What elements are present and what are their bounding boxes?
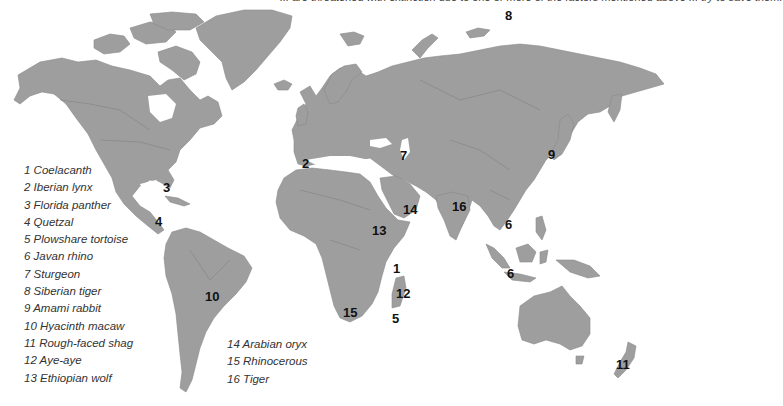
sumatra xyxy=(486,244,510,268)
novaya-zemlya xyxy=(412,34,438,58)
legend-column-1: 1 Coelacanth 2 Iberian lynx 3 Florida pa… xyxy=(24,162,133,387)
greenland xyxy=(196,10,292,90)
marker-arabian-oryx: 14 xyxy=(403,203,417,216)
marker-javan-rhino-2: 6 xyxy=(507,267,514,280)
legend-item: 2 Iberian lynx xyxy=(24,179,133,196)
legend-item: 3 Florida panther xyxy=(24,197,133,214)
legend-item: 13 Ethiopian wolf xyxy=(24,370,133,387)
legend-column-2: 14 Arabian oryx 15 Rhinocerous 16 Tiger xyxy=(227,336,308,388)
marker-plowshare-tortoise: 5 xyxy=(392,312,399,325)
marker-rhinocerous: 15 xyxy=(343,306,357,319)
marker-amami-rabbit: 9 xyxy=(548,148,555,161)
marker-tiger: 16 xyxy=(452,200,466,213)
marker-javan-rhino-1: 6 xyxy=(505,218,512,231)
marker-sturgeon: 7 xyxy=(400,149,407,162)
legend-item: 9 Amami rabbit xyxy=(24,300,133,317)
svalbard xyxy=(340,32,364,46)
legend-item: 15 Rhinocerous xyxy=(227,353,308,370)
legend-item: 7 Sturgeon xyxy=(24,266,133,283)
legend-item: 8 Siberian tiger xyxy=(24,283,133,300)
baffin-island xyxy=(158,46,200,80)
legend-item: 10 Hyacinth macaw xyxy=(24,318,133,335)
marker-aye-aye: 12 xyxy=(396,287,410,300)
legend-item: 6 Javan rhino xyxy=(24,248,133,265)
arctic-islands xyxy=(94,34,130,54)
australia xyxy=(518,286,590,350)
legend-item: 12 Aye-aye xyxy=(24,352,133,369)
cuba xyxy=(165,196,190,206)
caption-fragment: ... are threatened with extinction due t… xyxy=(280,0,783,3)
philippines xyxy=(536,216,546,240)
new-guinea xyxy=(556,260,600,278)
legend-item: 16 Tiger xyxy=(227,371,308,388)
borneo xyxy=(516,244,536,262)
legend-item: 1 Coelacanth xyxy=(24,162,133,179)
severnaya-zemlya xyxy=(466,28,490,38)
marker-ethiopian-wolf: 13 xyxy=(372,224,386,237)
iceland xyxy=(274,80,292,90)
marker-iberian-lynx: 2 xyxy=(302,157,309,170)
marker-coelacanth: 1 xyxy=(393,262,400,275)
sulawesi xyxy=(540,250,548,264)
marker-hyacinth-macaw: 10 xyxy=(205,290,219,303)
tasmania xyxy=(576,356,584,364)
marker-siberian-tiger: 8 xyxy=(505,9,512,22)
legend-item: 11 Rough-faced shag xyxy=(24,335,133,352)
legend-item: 5 Plowshare tortoise xyxy=(24,231,133,248)
marker-florida-panther: 3 xyxy=(163,181,170,194)
legend-item: 14 Arabian oryx xyxy=(227,336,308,353)
marker-quetzal: 4 xyxy=(155,215,162,228)
legend-item: 4 Quetzal xyxy=(24,214,133,231)
marker-rough-faced-shag: 11 xyxy=(616,358,630,371)
